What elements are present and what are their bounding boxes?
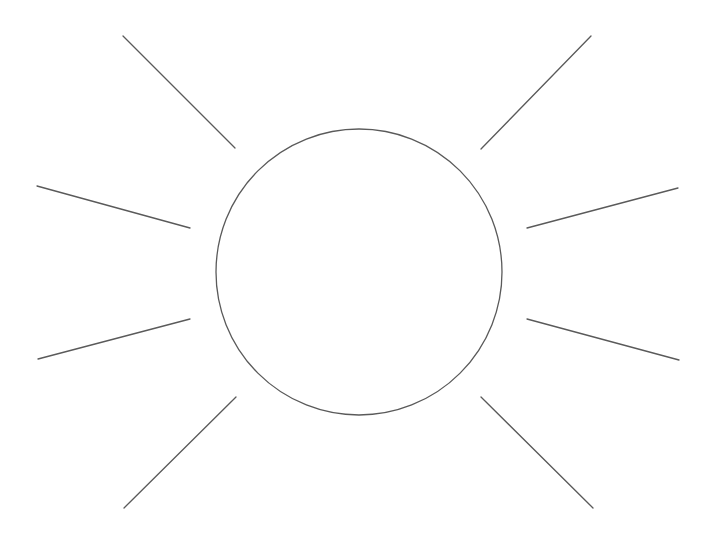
ray-lower-left [124, 397, 236, 508]
ray-upper-left [123, 36, 235, 148]
sun-drawing [0, 0, 705, 537]
ray-right-lower [527, 319, 679, 360]
ray-left-lower [38, 319, 190, 359]
ray-right-upper [527, 188, 678, 228]
ray-lower-right [481, 397, 593, 508]
sun-circle [216, 129, 502, 415]
ray-left-upper [37, 186, 190, 228]
ray-upper-right [481, 36, 591, 149]
sun-rays [37, 36, 679, 508]
